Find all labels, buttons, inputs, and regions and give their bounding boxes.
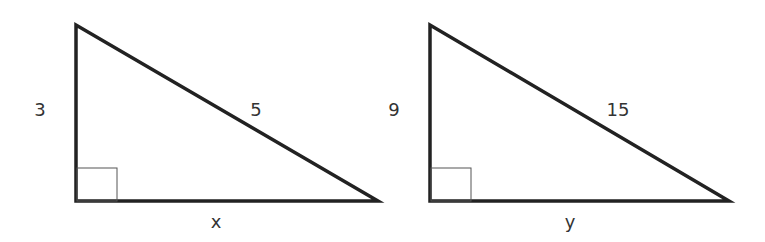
hypotenuse-label: 5 bbox=[250, 99, 261, 120]
similar-triangles-diagram: 3 5 x 9 15 y bbox=[0, 0, 765, 242]
triangle-1-shape bbox=[76, 25, 378, 201]
vertical-leg-label: 9 bbox=[388, 99, 399, 120]
right-angle-marker bbox=[431, 168, 471, 201]
hypotenuse-label: 15 bbox=[607, 99, 630, 120]
horizontal-leg-label: x bbox=[211, 211, 222, 232]
horizontal-leg-label: y bbox=[565, 211, 576, 232]
triangle-2-shape bbox=[430, 25, 729, 201]
triangle-1: 3 5 x bbox=[34, 25, 378, 232]
vertical-leg-label: 3 bbox=[34, 99, 45, 120]
triangle-2: 9 15 y bbox=[388, 25, 729, 232]
right-angle-marker bbox=[77, 168, 117, 201]
